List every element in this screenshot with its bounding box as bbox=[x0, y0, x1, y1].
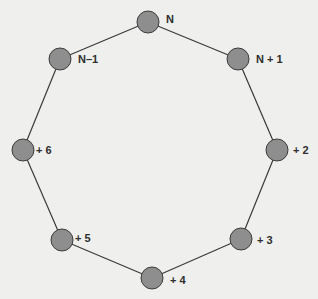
label-plus-3: + 3 bbox=[257, 234, 273, 246]
label-plus-5: + 5 bbox=[75, 232, 91, 244]
node-plus-2 bbox=[266, 139, 288, 161]
edge-plus-2-to-plus-3 bbox=[241, 150, 277, 239]
node-plus-4 bbox=[141, 267, 163, 289]
ring-diagram: N N + 1 + 2 + 3 + 4 + 5 + 6 N–1 bbox=[0, 0, 318, 299]
node-plus-3 bbox=[230, 228, 252, 250]
edge-n-to-n-plus-1 bbox=[148, 22, 238, 59]
node-plus-6 bbox=[12, 139, 34, 161]
edge-plus-3-to-plus-4 bbox=[152, 239, 241, 278]
edge-n-plus-1-to-plus-2 bbox=[238, 59, 277, 150]
label-plus-6: + 6 bbox=[36, 144, 52, 156]
node-n-minus-1 bbox=[49, 48, 71, 70]
label-plus-2: + 2 bbox=[293, 144, 309, 156]
edge-n-minus-1-to-n bbox=[60, 22, 148, 59]
node-n bbox=[137, 11, 159, 33]
node-plus-5 bbox=[51, 229, 73, 251]
label-n-plus-1: N + 1 bbox=[256, 53, 283, 65]
edge-plus-4-to-plus-5 bbox=[62, 240, 152, 278]
label-plus-4: + 4 bbox=[170, 274, 186, 286]
nodes bbox=[12, 11, 288, 289]
label-n: N bbox=[166, 13, 174, 25]
label-n-minus-1: N–1 bbox=[78, 53, 98, 65]
node-n-plus-1 bbox=[227, 48, 249, 70]
edge-plus-6-to-n-minus-1 bbox=[23, 59, 60, 150]
edge-plus-5-to-plus-6 bbox=[23, 150, 62, 240]
